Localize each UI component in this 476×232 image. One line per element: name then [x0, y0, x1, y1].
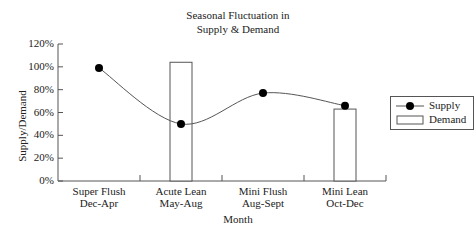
supply-point — [95, 64, 103, 72]
legend-label-demand: Demand — [429, 113, 466, 125]
x-category-label: Super FlushDec-Apr — [54, 185, 144, 209]
supply-line-marker-icon — [395, 99, 425, 113]
legend-supply: Supply — [391, 99, 473, 113]
legend-label-supply: Supply — [429, 99, 460, 111]
x-axis-label: Month — [188, 213, 288, 225]
x-category-label: Mini LeanOct-Dec — [300, 185, 390, 209]
y-axis-label: Supply/Demand — [16, 86, 28, 166]
legend: Supply Demand — [390, 96, 474, 130]
x-category-label: Mini FlushAug-Sept — [218, 185, 308, 209]
demand-bar-swatch-icon — [395, 113, 425, 127]
x-category-label: Acute LeanMay-Aug — [136, 185, 226, 209]
y-tick-label: 100% — [14, 60, 54, 72]
demand-bar — [334, 109, 356, 181]
supply-line — [99, 68, 345, 124]
y-tick-label: 120% — [14, 37, 54, 49]
supply-point — [341, 102, 349, 110]
y-tick-label: 0% — [14, 174, 54, 186]
supply-point — [259, 89, 267, 97]
legend-demand: Demand — [391, 113, 473, 127]
supply-point — [177, 120, 185, 128]
